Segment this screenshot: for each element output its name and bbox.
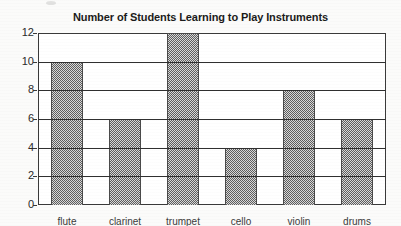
bar <box>109 119 141 205</box>
y-tick-label: 10 <box>4 56 34 67</box>
x-tick-label: flute <box>38 216 96 226</box>
x-tick-label: trumpet <box>154 216 212 226</box>
gridline <box>38 119 386 120</box>
x-tick-label: violin <box>270 216 328 226</box>
x-tick-label: clarinet <box>96 216 154 226</box>
y-tick-label: 8 <box>4 84 34 95</box>
plot-area <box>38 33 386 205</box>
y-tick-mark <box>33 205 37 206</box>
y-tick-mark <box>33 90 37 91</box>
x-tick-label: cello <box>212 216 270 226</box>
y-tick-mark <box>33 119 37 120</box>
y-axis: 024681012 <box>0 33 34 205</box>
chart-page: Number of Students Learning to Play Inst… <box>0 0 401 226</box>
gridline <box>38 62 386 63</box>
chart-title: Number of Students Learning to Play Inst… <box>0 11 401 24</box>
scan-artifact <box>46 1 56 5</box>
gridline <box>38 148 386 149</box>
bar <box>341 119 373 205</box>
y-tick-label: 4 <box>4 142 34 153</box>
y-tick-label: 0 <box>4 199 34 210</box>
x-tick-label: drums <box>328 216 386 226</box>
y-tick-mark <box>33 148 37 149</box>
y-tick-mark <box>33 176 37 177</box>
gridline <box>38 90 386 91</box>
y-tick-label: 2 <box>4 170 34 181</box>
y-tick-mark <box>33 33 37 34</box>
bar <box>51 62 83 205</box>
x-axis-labels: fluteclarinettrumpetcelloviolindrums <box>38 207 386 226</box>
y-tick-label: 6 <box>4 113 34 124</box>
y-tick-mark <box>33 62 37 63</box>
y-tick-label: 12 <box>4 27 34 38</box>
gridline <box>38 176 386 177</box>
